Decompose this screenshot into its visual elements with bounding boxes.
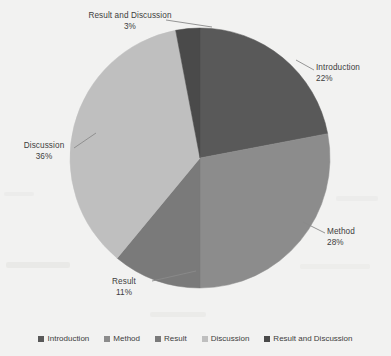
legend-swatch-icon xyxy=(155,336,161,342)
legend-swatch-icon xyxy=(38,336,44,342)
legend-swatch-icon xyxy=(264,336,270,342)
legend-label: Introduction xyxy=(47,334,89,343)
slice-label-percent: 11% xyxy=(96,287,152,298)
slice-label-percent: 22% xyxy=(316,73,388,84)
slice-label-result-and-discussion: Result and Discussion 3% xyxy=(60,10,200,32)
legend-item-introduction[interactable]: Introduction xyxy=(38,334,89,343)
legend-label: Discussion xyxy=(211,334,250,343)
slice-label-name: Result xyxy=(112,277,136,286)
pie-slices-group xyxy=(70,28,330,288)
slice-label-name: Introduction xyxy=(316,63,360,72)
pie-chart-figure: Result and Discussion 3% Introduction 22… xyxy=(0,0,391,356)
slice-label-discussion: Discussion 36% xyxy=(10,140,78,162)
legend-label: Result xyxy=(164,334,187,343)
slice-label-name: Result and Discussion xyxy=(88,11,171,20)
slice-label-percent: 3% xyxy=(60,21,200,32)
legend-swatch-icon xyxy=(202,336,208,342)
legend-item-result[interactable]: Result xyxy=(155,334,187,343)
legend-label: Method xyxy=(113,334,140,343)
slice-label-percent: 36% xyxy=(10,151,78,162)
legend-item-discussion[interactable]: Discussion xyxy=(202,334,250,343)
pie-chart-svg xyxy=(0,0,391,356)
slice-label-name: Method xyxy=(327,227,355,236)
legend-swatch-icon xyxy=(104,336,110,342)
legend-label: Result and Discussion xyxy=(273,334,352,343)
legend-item-method[interactable]: Method xyxy=(104,334,140,343)
leader-line-introduction xyxy=(296,60,314,70)
legend-item-result-and-discussion[interactable]: Result and Discussion xyxy=(264,334,352,343)
chart-legend: IntroductionMethodResultDiscussionResult… xyxy=(0,334,391,343)
slice-label-percent: 28% xyxy=(327,237,389,248)
slice-label-introduction: Introduction 22% xyxy=(316,62,388,84)
slice-label-name: Discussion xyxy=(24,141,65,150)
slice-label-result: Result 11% xyxy=(96,276,152,298)
slice-label-method: Method 28% xyxy=(327,226,389,248)
pie-slice-method xyxy=(200,134,330,288)
